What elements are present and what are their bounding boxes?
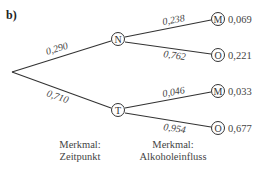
prob-n: 0,290 [44,40,69,57]
prob-t: 0,710 [45,87,70,105]
svg-text:N: N [114,34,121,45]
caption-level1-line2: Zeitpunkt [40,151,120,163]
svg-text:O: O [214,50,221,61]
caption-level2-line2: Alkoholeinfluss [128,151,218,163]
node-n-o: O [212,49,225,62]
prob-t-m: 0,046 [161,84,185,99]
node-n-m: M [212,13,225,26]
svg-text:O: O [214,123,221,134]
svg-text:M: M [214,14,223,25]
prob-n-o: 0,762 [163,48,187,62]
svg-text:M: M [214,86,223,97]
result-t-o: 0,677 [228,123,252,134]
caption-level1: Merkmal: Zeitpunkt [40,139,120,163]
result-n-m: 0,069 [228,14,252,25]
prob-t-o: 0,954 [163,121,187,135]
result-t-m: 0,033 [228,86,252,97]
node-t: T [112,104,125,117]
node-t-o: O [212,122,225,135]
prob-n-m: 0,238 [161,12,185,27]
diagram-label: b) [6,8,17,22]
node-n: N [112,33,125,46]
result-n-o: 0,221 [228,50,252,61]
node-t-m: M [212,85,225,98]
caption-level2-line1: Merkmal: [128,139,218,151]
svg-text:T: T [115,105,121,116]
caption-level1-line1: Merkmal: [40,139,120,151]
caption-level2: Merkmal: Alkoholeinfluss [128,139,218,163]
